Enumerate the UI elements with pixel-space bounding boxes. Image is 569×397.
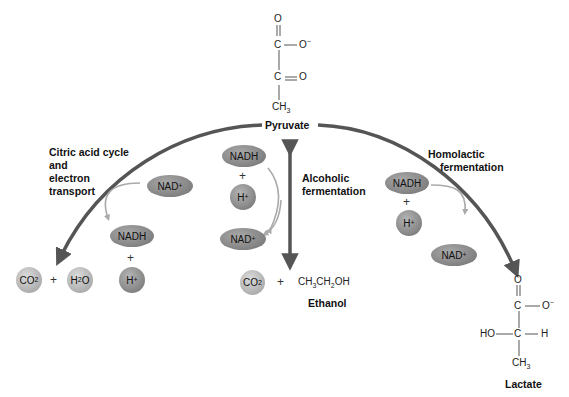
- pyruvate-bonds: [277, 25, 297, 100]
- alcoholic-label: Alcoholic fermentation: [302, 172, 366, 198]
- homolactic-label: Homolactic fermentation: [428, 148, 504, 174]
- ethanol-formula: CH3CH2OH: [298, 277, 350, 287]
- citric-co2: CO2: [16, 267, 42, 293]
- pyruvate-fates-diagram: O C O− C O CH3 Pyruvate Citric acid cycl…: [0, 0, 569, 397]
- alcoholic-products-plus: +: [277, 276, 284, 288]
- alcoholic-nad-plus: NAD+: [220, 228, 266, 250]
- alcoholic-proton: H+: [230, 184, 256, 210]
- pyruvate-label: Pyruvate: [265, 120, 309, 131]
- alcoholic-nadh: NADH: [222, 145, 266, 167]
- lactate-ho: HO: [480, 329, 495, 339]
- lactate-bonds: [496, 285, 540, 356]
- citric-plus-1: +: [127, 252, 134, 264]
- homolactic-plus-1: +: [403, 196, 410, 208]
- lactate-ch3: CH3: [512, 358, 530, 368]
- lactate-c2: C: [514, 329, 521, 339]
- lactate-h: H: [541, 329, 548, 339]
- citric-proton: H+: [119, 267, 145, 293]
- citric-label: Citric acid cycle and electron transport: [49, 146, 129, 198]
- alcoholic-plus-1: +: [239, 170, 246, 182]
- homolactic-nad-plus: NAD+: [431, 244, 477, 266]
- pyruvate-o-double: O: [299, 72, 307, 82]
- homolactic-proton: H+: [396, 210, 422, 236]
- lactate-o-minus: O−: [542, 301, 554, 311]
- pyruvate-o-minus: O−: [299, 40, 311, 50]
- ethanol-label: Ethanol: [308, 298, 347, 309]
- pyruvate-ch3: CH3: [272, 102, 290, 112]
- citric-nad-plus: NAD+: [147, 175, 193, 197]
- lactate-label: Lactate: [505, 379, 542, 390]
- citric-products-plus: +: [50, 274, 57, 286]
- citric-h2o: H2O: [67, 267, 93, 293]
- alcoholic-co2: CO2: [240, 270, 265, 295]
- lactate-o-top: O: [514, 275, 522, 285]
- pyruvate-o-top: O: [274, 14, 282, 24]
- lactate-c1: C: [514, 301, 521, 311]
- citric-nadh: NADH: [110, 225, 154, 247]
- pyruvate-c1: C: [274, 40, 281, 50]
- pyruvate-c2: C: [274, 72, 281, 82]
- homolactic-nadh: NADH: [385, 172, 429, 194]
